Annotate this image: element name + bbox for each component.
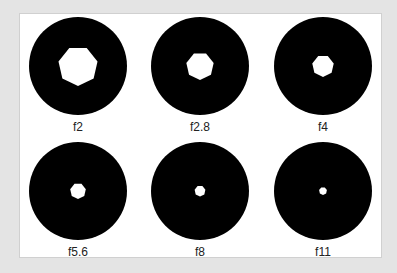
aperture-diagram: f2f2.8f4f5.6f8f11 (0, 0, 397, 273)
aperture-f2: f2 (29, 17, 127, 134)
aperture-f2-8: f2.8 (151, 17, 249, 134)
aperture-f8: f8 (151, 142, 249, 259)
aperture-f11: f11 (274, 142, 372, 259)
aperture-label: f2 (73, 120, 83, 134)
aperture-label: f11 (315, 245, 331, 259)
aperture-label: f5.6 (68, 245, 88, 259)
aperture-label: f2.8 (190, 120, 210, 134)
aperture-f5-6: f5.6 (29, 142, 127, 259)
aperture-f4: f4 (274, 17, 372, 134)
aperture-label: f4 (318, 120, 328, 134)
aperture-label: f8 (195, 245, 205, 259)
